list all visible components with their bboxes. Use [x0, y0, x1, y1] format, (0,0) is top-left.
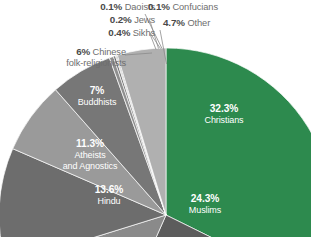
callout-name-sikhs: Sikhs: [133, 28, 155, 38]
pie-chart-graphic: [0, 0, 311, 237]
slice-pct-muslims: 24.3%: [168, 193, 242, 205]
callout-label-jews: 0.2% Jews: [110, 14, 155, 26]
slice-pct-hindu: 13.6%: [78, 184, 140, 196]
callout-label-confucians: 0.1% Confucians: [148, 1, 218, 13]
callout-line1-chinese: 6% Chinese: [66, 46, 126, 58]
callout-name-chinese: Chinese: [93, 47, 126, 57]
callout-pct-daoists: 0.1%: [100, 1, 122, 12]
slice-name-buddhists: Buddhists: [71, 97, 123, 108]
slice-name2-atheists: and Agnostics: [34, 161, 146, 172]
callout-label-sikhs: 0.4% Sikhs: [108, 27, 155, 39]
callout-name-other: Other: [187, 18, 210, 28]
callout-pct-confucians: 0.1%: [148, 1, 170, 12]
callout-pct-jews: 0.2%: [110, 14, 132, 25]
slice-label-christians: 32.3% Christians: [186, 103, 262, 126]
slice-name-christians: Christians: [186, 115, 262, 126]
callout-name2-chinese: folk-religionists: [66, 58, 126, 69]
callout-label-chinese-folk-religionists: 6% Chinese folk-religionists: [66, 46, 126, 69]
callout-pct-other: 4.7%: [163, 17, 185, 28]
slice-label-buddhists: 7% Buddhists: [71, 85, 123, 108]
callout-label-daoists: 0.1% Daoists: [100, 1, 155, 13]
slice-name-muslims: Muslims: [168, 205, 242, 216]
callout-name-confucians: Confucians: [172, 2, 218, 12]
slice-label-hindu: 13.6% Hindu: [78, 184, 140, 207]
slice-pct-christians: 32.3%: [186, 103, 262, 115]
callout-label-other: 4.7% Other: [163, 17, 210, 29]
callout-pct-sikhs: 0.4%: [108, 27, 130, 38]
slice-label-atheists-and-agnostics: 11.3% Atheists and Agnostics: [34, 138, 146, 171]
slice-name-atheists: Atheists: [34, 150, 146, 161]
callout-name-jews: Jews: [134, 15, 155, 25]
slice-name-hindu: Hindu: [78, 196, 140, 207]
callout-pct-chinese: 6%: [76, 46, 90, 57]
slice-pct-buddhists: 7%: [71, 85, 123, 97]
slice-pct-atheists: 11.3%: [34, 138, 146, 150]
slice-label-muslims: 24.3% Muslims: [168, 193, 242, 216]
pie-chart-figure: 0.1% Daoists 0.2% Jews 0.4% Sikhs 6% Chi…: [0, 0, 311, 237]
